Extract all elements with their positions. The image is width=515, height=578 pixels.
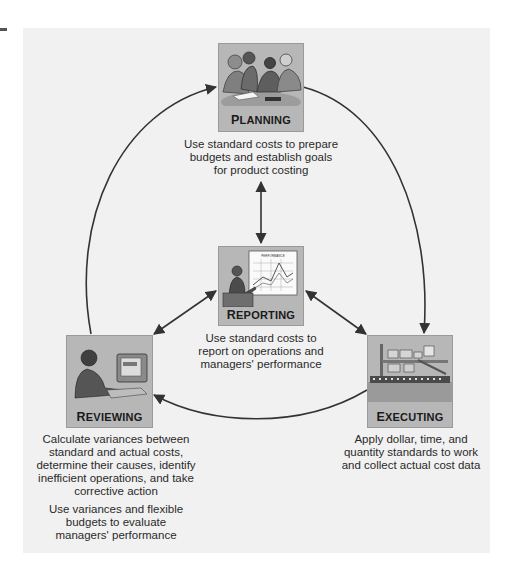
computer-worker-icon xyxy=(67,336,152,402)
stage-label-reviewing: REVIEWING xyxy=(67,410,152,424)
stage-executing: EXECUTING xyxy=(367,335,453,428)
reviewing-description: Calculate variances between standard and… xyxy=(28,433,204,498)
stage-label-planning: PLANNING xyxy=(219,113,303,127)
executing-description: Apply dollar, time, and quantity standar… xyxy=(336,433,486,472)
stage-label-reporting: REPORTING xyxy=(219,308,303,322)
arrow-reviewing-to-planning xyxy=(86,87,216,334)
stage-reviewing: REVIEWING xyxy=(66,335,153,428)
stage-planning: PLANNING xyxy=(218,43,304,132)
arrow-planning-to-executing xyxy=(303,87,425,333)
arrow-reporting-reviewing xyxy=(154,291,216,334)
presenter-chart-icon: PERFORMANCE xyxy=(219,247,303,307)
planning-description: Use standard costs to prepare budgets an… xyxy=(180,138,342,177)
factory-assembly-line-icon xyxy=(368,336,452,402)
stage-label-executing: EXECUTING xyxy=(368,410,452,424)
arrow-executing-to-reviewing xyxy=(154,390,367,419)
svg-text:PERFORMANCE: PERFORMANCE xyxy=(261,254,284,258)
reviewing-description-secondary: Use variances and flexible budgets to ev… xyxy=(28,503,204,542)
arrow-reporting-executing xyxy=(306,291,366,334)
stage-reporting: PERFORMANCE REPORTING xyxy=(218,246,304,326)
team-meeting-icon xyxy=(219,44,303,106)
reporting-description: Use standard costs to report on operatio… xyxy=(185,332,337,371)
